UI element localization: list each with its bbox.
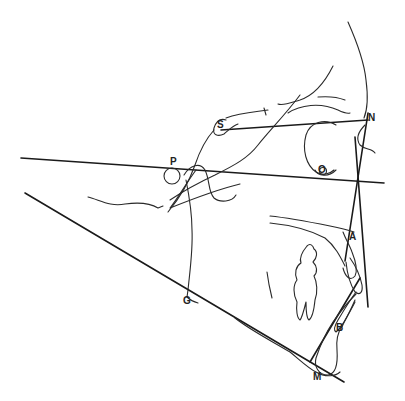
landmark-label-a: A bbox=[349, 231, 356, 242]
porion-marker bbox=[164, 168, 180, 184]
sn-line bbox=[221, 120, 368, 130]
sphenoid-trace bbox=[170, 95, 300, 200]
nasal-soft-trace bbox=[358, 125, 375, 153]
palate-lower-trace bbox=[270, 223, 345, 266]
orbital-roof-trace bbox=[318, 97, 345, 100]
frankfort-horizontal-line bbox=[21, 158, 384, 183]
symphysis-trace bbox=[316, 294, 357, 375]
landmark-label-m: M bbox=[313, 371, 321, 382]
frontal-trace bbox=[278, 66, 333, 105]
landmark-label-g: G bbox=[183, 295, 191, 306]
palate-upper-trace bbox=[270, 216, 354, 232]
cephalometric-diagram: S N P O A B G M bbox=[0, 0, 405, 401]
tracing-canvas: S N P O A B G M bbox=[0, 0, 405, 401]
sella-floor-trace bbox=[226, 110, 268, 118]
landmark-label-p: P bbox=[170, 156, 177, 167]
ramus-posterior-trace bbox=[186, 180, 192, 297]
nasal-bone-trace bbox=[348, 22, 367, 118]
mandibular-plane-line bbox=[25, 193, 344, 382]
molar-tooth-trace bbox=[294, 245, 317, 320]
planum-trace bbox=[264, 108, 266, 115]
anterior-cranial-trace bbox=[288, 105, 350, 113]
landmark-label-s: S bbox=[217, 119, 224, 130]
premolar-trace bbox=[267, 272, 272, 298]
landmark-label-o: O bbox=[318, 164, 326, 175]
landmark-label-n: N bbox=[368, 112, 375, 123]
landmark-label-b: B bbox=[336, 322, 343, 333]
zygoma-trace bbox=[88, 197, 163, 208]
